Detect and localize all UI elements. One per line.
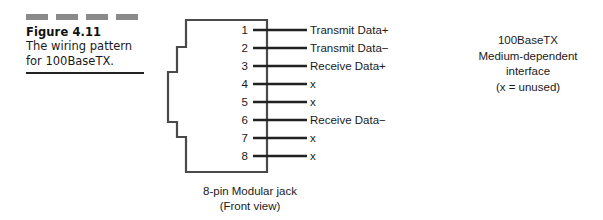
figure-caption-line-2: for 100BaseTX. (26, 54, 152, 69)
signal-label-pin-4: x (310, 79, 316, 91)
signal-label-pin-5: x (310, 97, 316, 109)
figure-caption-line-1: The wiring pattern (26, 39, 152, 54)
figure-caption-block: Figure 4.11 The wiring pattern for 100Ba… (26, 14, 152, 74)
mdi-note-block: 100BaseTX Medium-dependent interface (x … (452, 33, 603, 95)
decorative-dash (86, 14, 108, 20)
pin-number-5: 5 (232, 97, 248, 109)
jack-body-outline (168, 20, 267, 172)
pin-number-8: 8 (232, 151, 248, 163)
decorative-dash-row (26, 14, 152, 20)
modular-jack-diagram: 1 2 3 4 5 6 7 8 (160, 14, 310, 180)
signal-label-pin-1: Transmit Data+ (310, 25, 389, 37)
mdi-note-line-4: (x = unused) (452, 80, 603, 96)
pin-number-6: 6 (232, 115, 248, 127)
mdi-note-line-2: Medium-dependent (452, 49, 603, 65)
jack-caption-block: 8-pin Modular jack (Front view) (160, 184, 340, 214)
decorative-dash (116, 14, 138, 20)
mdi-note-line-1: 100BaseTX (452, 33, 603, 49)
signal-label-pin-6: Receive Data− (310, 115, 386, 127)
figure-number-label: Figure 4.11 (26, 25, 152, 39)
pin-number-3: 3 (232, 61, 248, 73)
pin-number-1: 1 (232, 25, 248, 37)
pin-number-4: 4 (232, 79, 248, 91)
decorative-dash (26, 14, 48, 20)
signal-label-pin-7: x (310, 133, 316, 145)
pin-number-2: 2 (232, 43, 248, 55)
jack-caption-line-2: (Front view) (160, 199, 340, 214)
decorative-dash (56, 14, 78, 20)
caption-divider-rule (26, 72, 144, 74)
jack-caption-line-1: 8-pin Modular jack (160, 184, 340, 199)
signal-label-pin-8: x (310, 151, 316, 163)
mdi-note-line-3: interface (452, 64, 603, 80)
signal-label-pin-2: Transmit Data− (310, 43, 389, 55)
signal-label-pin-3: Receive Data+ (310, 61, 386, 73)
pin-number-7: 7 (232, 133, 248, 145)
